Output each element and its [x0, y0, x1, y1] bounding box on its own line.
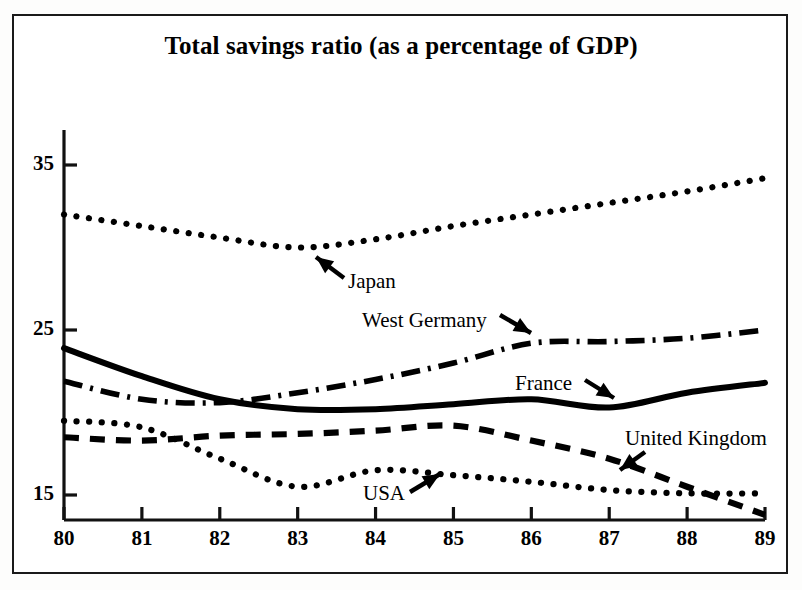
series-line-west-germany — [64, 330, 765, 403]
x-axis-tick-label: 86 — [501, 526, 561, 551]
x-axis-tick-label: 88 — [657, 526, 717, 551]
figure-container: Total savings ratio (as a percentage of … — [0, 0, 802, 590]
x-axis-tick-label: 81 — [112, 526, 172, 551]
x-axis-tick-label: 83 — [268, 526, 328, 551]
y-axis-tick-label: 15 — [12, 481, 54, 506]
series-line-japan — [64, 178, 765, 247]
series-label-usa: USA — [363, 481, 405, 506]
x-axis-tick-label: 87 — [579, 526, 639, 551]
x-axis-tick-label: 82 — [190, 526, 250, 551]
series-label-france: France — [515, 371, 572, 396]
series-label-united-kingdom: United Kingdom — [625, 426, 767, 451]
series-label-japan: Japan — [348, 269, 396, 294]
x-axis-tick-label: 89 — [735, 526, 795, 551]
x-axis-tick-label: 84 — [346, 526, 406, 551]
x-axis-tick-label: 80 — [34, 526, 94, 551]
y-axis-tick-label: 35 — [12, 151, 54, 176]
x-axis-tick-label: 85 — [423, 526, 483, 551]
y-axis-tick-label: 25 — [12, 316, 54, 341]
series-line-france — [64, 348, 765, 410]
series-label-west-germany: West Germany — [362, 308, 487, 333]
series-lines — [64, 178, 765, 515]
